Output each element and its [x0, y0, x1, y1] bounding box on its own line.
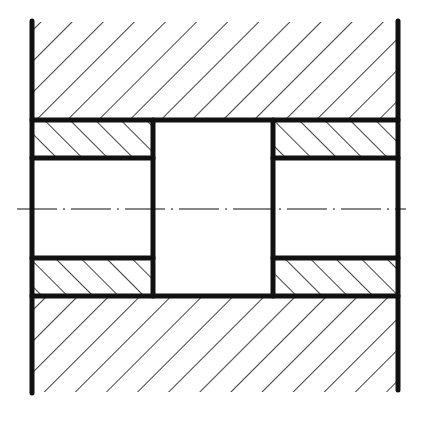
upper-housing-hatch [33, 22, 397, 120]
lower-left-bushing [33, 259, 153, 296]
upper-left-bushing [33, 121, 153, 158]
lower-housing-hatch [33, 297, 397, 392]
lower-right-bushing [273, 259, 397, 296]
section-drawing [0, 0, 421, 424]
upper-right-bushing [273, 121, 397, 158]
